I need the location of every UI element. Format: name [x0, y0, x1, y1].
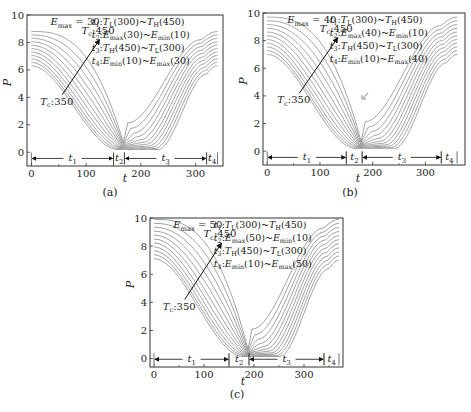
- chart-panel-a: 01002003000246810tP(a)t1​t2​t3​t4​Emax​ …: [1, 10, 223, 200]
- panel-caption: (b): [342, 186, 358, 199]
- y-axis-label: P: [124, 280, 137, 289]
- y-tick-label: 2: [254, 118, 260, 129]
- y-tick-label: 4: [141, 297, 147, 308]
- x-tick-label: 200: [363, 167, 382, 178]
- y-tick-label: 0: [18, 147, 24, 158]
- x-tick-label: 0: [28, 168, 34, 179]
- y-tick-label: 8: [254, 35, 260, 46]
- phase-annotation-3: t3​:TH​(450)~TL​(300): [214, 245, 307, 258]
- phase-label-t2: t2​: [115, 152, 123, 166]
- y-tick-label: 6: [254, 63, 260, 74]
- curve-tc-400: [154, 239, 339, 353]
- y-tick-label: 10: [247, 8, 260, 19]
- y-tick-label: 0: [254, 146, 260, 157]
- y-tick-label: 0: [141, 353, 147, 364]
- x-tick-label: 300: [186, 168, 205, 179]
- x-tick-label: 0: [151, 369, 157, 380]
- panel-caption: (a): [102, 186, 117, 199]
- tc-arrow: [62, 40, 99, 95]
- tc-low-label: Tc​:350: [277, 94, 310, 108]
- x-tick-label: 300: [416, 167, 435, 178]
- x-tick-label: 100: [77, 168, 96, 179]
- phase-label-t2: t2​: [350, 151, 358, 165]
- x-tick-label: 200: [131, 168, 150, 179]
- phase-annotation-4: t4​:Emin​(10)~Emax​(30): [92, 55, 190, 68]
- phase-label-t1: t1​: [303, 151, 311, 165]
- y-tick-label: 2: [18, 119, 24, 130]
- panel-caption: (c): [230, 388, 245, 401]
- x-tick-label: 200: [244, 369, 263, 380]
- phase-label-t4: t4​: [445, 151, 453, 165]
- phase-label-t1: t1​: [68, 152, 76, 166]
- phase-annotation-4: t4​:Emin​(10)~Emax​(40): [330, 53, 428, 66]
- grey-marker-arrow-icon: [362, 93, 368, 99]
- y-axis-label: P: [1, 78, 14, 87]
- phase-label-t4: t4​: [328, 353, 336, 367]
- y-tick-label: 10: [11, 10, 24, 21]
- y-tick-label: 8: [141, 241, 147, 252]
- y-tick-label: 2: [141, 325, 147, 336]
- chart-panel-b: 01002003000246810tP(b)t1​t2​t3​t4​Emax​ …: [237, 8, 465, 200]
- phase-label-t4: t4​: [208, 152, 216, 166]
- chart-panel-c: 01002003000246810tP(c)t1​t2​t3​t4​Emax​ …: [124, 213, 343, 402]
- x-axis-label: t: [123, 172, 128, 185]
- figure-svg: 01002003000246810tP(a)t1​t2​t3​t4​Emax​ …: [0, 0, 471, 412]
- phase-annotation-3: t3​:TH​(450)~TL​(300): [330, 40, 423, 53]
- phase-label-t3: t3​: [162, 152, 170, 166]
- y-tick-label: 8: [18, 37, 24, 48]
- x-tick-label: 100: [194, 369, 213, 380]
- y-tick-label: 4: [18, 92, 24, 103]
- y-tick-label: 6: [141, 269, 147, 280]
- x-axis-label: t: [356, 172, 361, 185]
- phase-label-t3: t3​: [283, 353, 291, 367]
- tc-low-label: Tc​:350: [40, 96, 73, 110]
- y-tick-label: 10: [134, 213, 147, 224]
- phase-annotation-3: t3​:TH​(450)~TL​(300): [92, 42, 185, 55]
- x-tick-label: 300: [294, 369, 313, 380]
- x-tick-label: 0: [264, 167, 270, 178]
- x-axis-label: t: [241, 375, 246, 388]
- phase-annotation-4: t4​:Emin​(10)~Emax​(50): [214, 258, 312, 271]
- x-tick-label: 100: [310, 167, 329, 178]
- tc-low-label: Tc​:350: [163, 301, 196, 315]
- phase-label-t3: t3​: [398, 151, 406, 165]
- y-axis-label: P: [237, 77, 250, 86]
- y-tick-label: 6: [18, 64, 24, 75]
- phase-label-t1: t1​: [188, 353, 196, 367]
- y-tick-label: 4: [254, 90, 260, 101]
